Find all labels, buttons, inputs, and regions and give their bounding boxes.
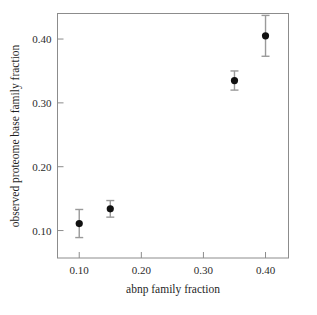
y-tick-label: 0.30 <box>32 97 52 109</box>
data-point-marker <box>76 220 83 227</box>
x-axis-title: abnp family fraction <box>126 283 220 296</box>
x-tick-label: 0.40 <box>256 264 276 276</box>
x-tick-label: 0.20 <box>132 264 152 276</box>
y-tick-label: 0.20 <box>32 161 52 173</box>
y-tick-label: 0.10 <box>32 225 52 237</box>
scatter-plot: 0.100.200.300.40 0.100.200.300.40 abnp f… <box>0 0 317 315</box>
y-axis-title: observed proteome base family fraction <box>9 44 22 227</box>
x-tick-label: 0.10 <box>70 264 90 276</box>
chart-figure: 0.100.200.300.40 0.100.200.300.40 abnp f… <box>0 0 317 315</box>
x-tick-label: 0.30 <box>194 264 214 276</box>
data-point-marker <box>107 205 114 212</box>
y-tick-label: 0.40 <box>32 33 52 45</box>
data-point-marker <box>231 77 238 84</box>
data-point-marker <box>262 32 269 39</box>
